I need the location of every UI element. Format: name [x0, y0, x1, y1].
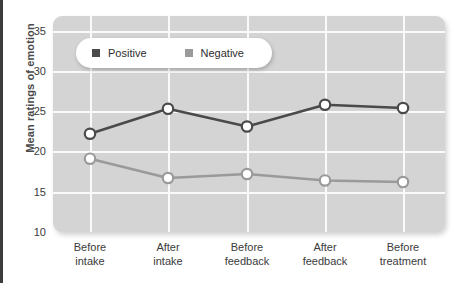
x-axis-tick-label-line: treatment: [348, 254, 458, 268]
x-axis-tick-label: Beforetreatment: [348, 240, 458, 268]
gridline-vertical: [325, 16, 327, 232]
y-axis-tick-label: 25: [0, 105, 46, 117]
gridline-horizontal: [53, 151, 445, 153]
x-axis-tick-label-line: Before: [348, 240, 458, 254]
legend-item-positive[interactable]: Positive: [92, 47, 147, 59]
y-axis-tick-label: 15: [0, 186, 46, 198]
y-axis-tick-label: 35: [0, 25, 46, 37]
y-axis-tick-label: 30: [0, 65, 46, 77]
gridline-horizontal: [53, 192, 445, 194]
square-marker-icon: [92, 49, 100, 57]
chart-figure: Mean ratings of emotion 101520253035 Bef…: [0, 0, 463, 283]
gridline-horizontal: [53, 111, 445, 113]
y-axis-tick-label: 10: [0, 226, 46, 238]
gridline-vertical: [403, 16, 405, 232]
y-axis-tick-label: 20: [0, 145, 46, 157]
chart-legend: Positive Negative: [76, 38, 272, 68]
legend-item-negative[interactable]: Negative: [185, 47, 244, 59]
square-marker-icon: [185, 49, 193, 57]
gridline-horizontal: [53, 71, 445, 73]
legend-label-negative: Negative: [201, 47, 244, 59]
legend-label-positive: Positive: [108, 47, 147, 59]
gridline-horizontal: [53, 31, 445, 33]
figure-left-border: [0, 0, 3, 283]
